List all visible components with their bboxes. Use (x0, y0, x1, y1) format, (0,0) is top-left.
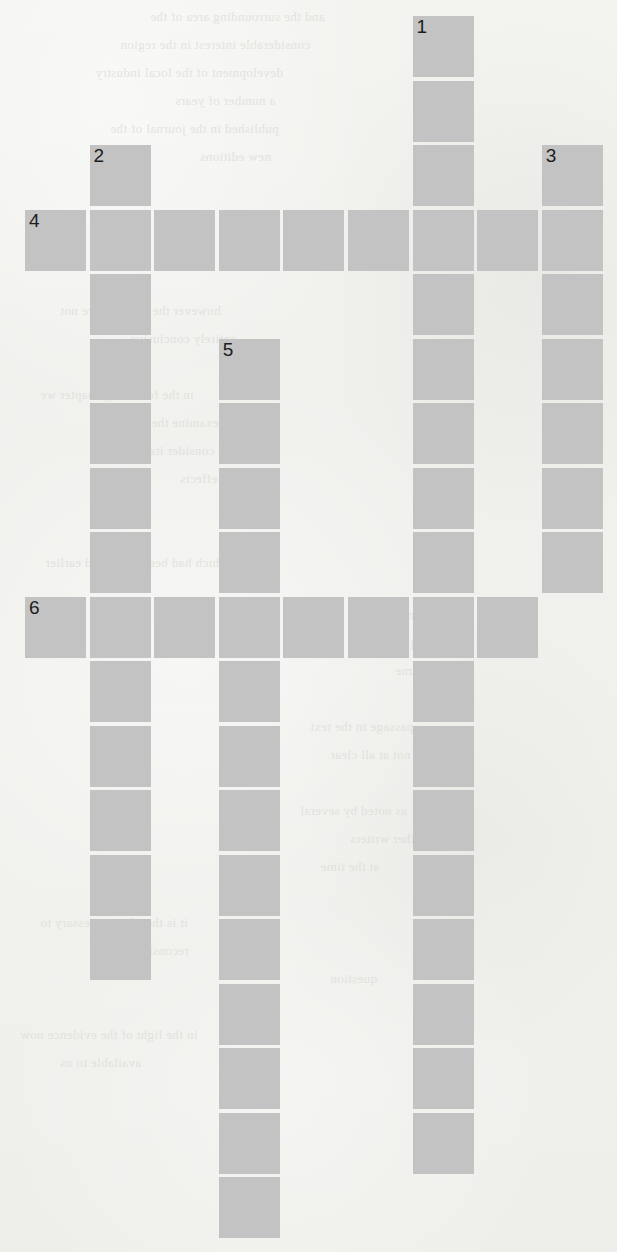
crossword-cell[interactable] (413, 274, 474, 335)
crossword-cell[interactable] (413, 1113, 474, 1174)
crossword-cell[interactable] (542, 210, 603, 271)
crossword-cell-numbered[interactable]: 3 (542, 145, 603, 206)
crossword-cell[interactable] (283, 210, 344, 271)
crossword-cell[interactable] (477, 210, 538, 271)
crossword-cell[interactable] (348, 210, 409, 271)
crossword-cell[interactable] (413, 339, 474, 400)
crossword-cell[interactable] (219, 661, 280, 722)
clue-number: 2 (94, 145, 105, 167)
crossword-cell[interactable] (219, 1113, 280, 1174)
crossword-cell[interactable] (542, 339, 603, 400)
crossword-cell[interactable] (413, 984, 474, 1045)
crossword-cell[interactable] (413, 790, 474, 851)
crossword-cell[interactable] (413, 855, 474, 916)
crossword-cell[interactable] (90, 726, 151, 787)
crossword-cell[interactable] (219, 919, 280, 980)
crossword-cell-numbered[interactable]: 6 (25, 597, 86, 658)
crossword-cell[interactable] (413, 661, 474, 722)
crossword-cell-numbered[interactable]: 4 (25, 210, 86, 271)
crossword-cell[interactable] (90, 274, 151, 335)
crossword-cell[interactable] (413, 726, 474, 787)
crossword-cell[interactable] (413, 403, 474, 464)
crossword-cell[interactable] (219, 1048, 280, 1109)
crossword-cell[interactable] (90, 790, 151, 851)
crossword-cell[interactable] (413, 1048, 474, 1109)
crossword-cell[interactable] (219, 403, 280, 464)
crossword-cell[interactable] (90, 661, 151, 722)
crossword-cell[interactable] (413, 919, 474, 980)
crossword-cell[interactable] (413, 468, 474, 529)
crossword-cell[interactable] (542, 274, 603, 335)
crossword-cell[interactable] (90, 919, 151, 980)
crossword-cell[interactable] (90, 339, 151, 400)
crossword-cell[interactable] (90, 597, 151, 658)
crossword-cell[interactable] (90, 532, 151, 593)
clue-number: 6 (29, 597, 40, 619)
crossword-cell[interactable] (413, 532, 474, 593)
crossword-cell[interactable] (219, 468, 280, 529)
crossword-cell[interactable] (542, 468, 603, 529)
crossword-cell[interactable] (154, 210, 215, 271)
crossword-cell[interactable] (90, 855, 151, 916)
crossword-cell[interactable] (413, 81, 474, 142)
crossword-cell[interactable] (219, 1177, 280, 1238)
crossword-cell[interactable] (348, 597, 409, 658)
crossword-cell[interactable] (283, 597, 344, 658)
crossword-cell[interactable] (90, 210, 151, 271)
crossword-cell[interactable] (90, 403, 151, 464)
crossword-cell[interactable] (219, 984, 280, 1045)
crossword-cell[interactable] (413, 210, 474, 271)
crossword-cell-numbered[interactable]: 1 (413, 16, 474, 77)
crossword-cell[interactable] (219, 532, 280, 593)
clue-number: 3 (546, 145, 557, 167)
crossword-cell[interactable] (219, 210, 280, 271)
clue-number: 5 (223, 339, 234, 361)
crossword-cell[interactable] (413, 145, 474, 206)
crossword-cell[interactable] (90, 468, 151, 529)
crossword-cell[interactable] (413, 597, 474, 658)
clue-number: 4 (29, 210, 40, 232)
crossword-cell-numbered[interactable]: 5 (219, 339, 280, 400)
crossword-cell[interactable] (219, 597, 280, 658)
crossword-cell[interactable] (154, 597, 215, 658)
crossword-cell-numbered[interactable]: 2 (90, 145, 151, 206)
crossword-cell[interactable] (219, 855, 280, 916)
crossword-cell[interactable] (219, 790, 280, 851)
clue-number: 1 (417, 16, 428, 38)
crossword-cell[interactable] (542, 532, 603, 593)
crossword-cell[interactable] (542, 403, 603, 464)
crossword-cell[interactable] (477, 597, 538, 658)
crossword-page: and the surrounding area of theconsidera… (0, 0, 617, 1252)
crossword-cell[interactable] (219, 726, 280, 787)
crossword-grid[interactable]: 123456 (0, 0, 617, 1252)
